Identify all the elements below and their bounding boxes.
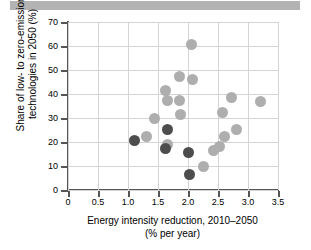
scatter-point [226, 92, 237, 103]
x-tick-label: 0.5 [85, 198, 111, 207]
y-tick-label: 50 [36, 66, 58, 75]
gridline-horizontal [68, 22, 278, 23]
scatter-point [160, 143, 171, 154]
x-tick-label: 1.5 [145, 198, 171, 207]
scatter-point [149, 113, 160, 124]
scatter-point [129, 135, 140, 146]
x-tick-label: 3.5 [265, 198, 291, 207]
x-axis-title-line2: (% per year) [40, 227, 305, 240]
scatter-point [174, 71, 185, 82]
y-tick-mark [61, 22, 68, 24]
scatter-point [198, 161, 209, 172]
x-tick-label: 2.5 [205, 198, 231, 207]
gridline-horizontal [68, 166, 278, 167]
y-tick-label: 70 [36, 18, 58, 27]
scatter-point [217, 107, 228, 118]
gridline-vertical [218, 22, 219, 190]
scatter-point [214, 141, 225, 152]
scatter-point [162, 95, 173, 106]
scatter-point [183, 147, 194, 158]
y-axis-title-line1: Share of low- to zero-emission [15, 0, 26, 132]
scatter-point [141, 131, 152, 142]
gridline-horizontal [68, 70, 278, 71]
gridline-vertical [128, 22, 129, 190]
scatter-point [255, 96, 266, 107]
gridline-horizontal [68, 190, 278, 191]
gridline-horizontal [68, 118, 278, 119]
y-tick-mark [61, 70, 68, 72]
x-tick-label: 1.0 [115, 198, 141, 207]
x-tick-label: 2.0 [175, 198, 201, 207]
gridline-vertical [278, 22, 279, 190]
y-tick-label: 60 [36, 42, 58, 51]
y-tick-label: 0 [36, 186, 58, 195]
gridline-vertical [68, 22, 69, 190]
scatter-point [184, 169, 195, 180]
y-tick-label: 20 [36, 138, 58, 147]
scatter-point [186, 39, 197, 50]
y-tick-label: 40 [36, 90, 58, 99]
gridline-vertical [98, 22, 99, 190]
y-tick-mark [61, 142, 68, 144]
x-tick-label: 0 [55, 198, 81, 207]
scatter-point [174, 95, 185, 106]
y-tick-mark [61, 166, 68, 168]
y-tick-mark [61, 118, 68, 120]
x-tick-label: 3.0 [235, 198, 261, 207]
gridline-horizontal [68, 94, 278, 95]
scatter-point [219, 131, 230, 142]
y-tick-label: 30 [36, 114, 58, 123]
scatter-point [187, 74, 198, 85]
gridline-vertical [158, 22, 159, 190]
plot-area [68, 22, 278, 190]
scatter-point [231, 124, 242, 135]
x-axis-title: Energy intensity reduction, 2010–2050 (%… [40, 214, 305, 240]
y-tick-mark [61, 46, 68, 48]
scatter-chart-figure: Share of low- to zero-emission technolog… [0, 0, 311, 250]
y-tick-label: 10 [36, 162, 58, 171]
x-axis-title-line1: Energy intensity reduction, 2010–2050 [87, 215, 258, 226]
gridline-horizontal [68, 46, 278, 47]
y-tick-mark [61, 190, 68, 192]
scatter-point [162, 124, 173, 135]
y-tick-mark [61, 94, 68, 96]
gridline-vertical [248, 22, 249, 190]
gridline-horizontal [68, 142, 278, 143]
